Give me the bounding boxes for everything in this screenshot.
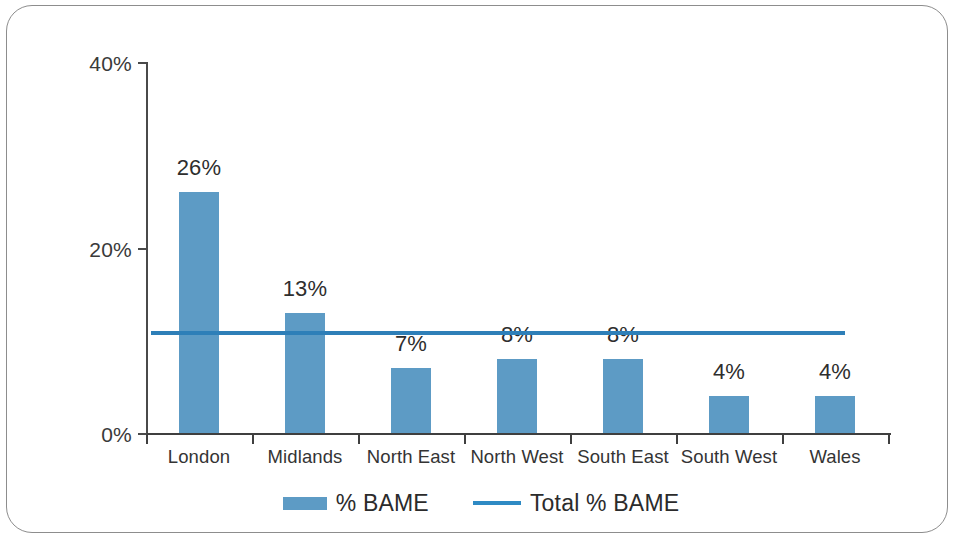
bar-wales[interactable] bbox=[815, 396, 855, 433]
x-axis-category-wales: Wales bbox=[765, 446, 905, 468]
x-axis-tick-6 bbox=[782, 434, 784, 444]
bar-south-east[interactable] bbox=[603, 359, 643, 433]
chart-legend: % BAME Total % BAME bbox=[0, 486, 962, 520]
bar-label-south-west: 4% bbox=[684, 359, 774, 385]
legend-line-swatch-icon bbox=[473, 501, 521, 505]
bar-label-south-east: 8% bbox=[578, 322, 668, 348]
x-axis-tick-1 bbox=[252, 434, 254, 444]
y-axis-label-0: 0% bbox=[52, 423, 132, 447]
y-axis-tick-40 bbox=[138, 62, 147, 64]
legend-label-bame: % BAME bbox=[336, 490, 429, 517]
bar-label-midlands: 13% bbox=[260, 276, 350, 302]
x-axis-line bbox=[146, 433, 891, 435]
bar-label-north-west: 8% bbox=[472, 322, 562, 348]
bar-north-east[interactable] bbox=[391, 368, 431, 433]
x-axis-tick-3 bbox=[464, 434, 466, 444]
legend-label-total-bame: Total % BAME bbox=[530, 490, 679, 517]
y-axis-label-20: 20% bbox=[52, 238, 132, 262]
bar-london[interactable] bbox=[179, 192, 219, 433]
y-axis-tick-20 bbox=[138, 248, 147, 250]
bar-label-wales: 4% bbox=[790, 359, 880, 385]
bar-north-west[interactable] bbox=[497, 359, 537, 433]
bar-label-london: 26% bbox=[154, 155, 244, 181]
bar-south-west[interactable] bbox=[709, 396, 749, 433]
total-bame-reference-line bbox=[151, 331, 845, 335]
x-axis-tick-0 bbox=[146, 434, 148, 444]
x-axis-tick-5 bbox=[676, 434, 678, 444]
x-axis-tick-7 bbox=[888, 434, 890, 444]
y-axis-label-40: 40% bbox=[52, 52, 132, 76]
legend-item-total-bame[interactable]: Total % BAME bbox=[473, 490, 679, 517]
x-axis-tick-2 bbox=[358, 434, 360, 444]
legend-item-bame[interactable]: % BAME bbox=[283, 490, 429, 517]
bame-by-region-bar-chart: 40% 20% 0% 26% 13% 7% 8% 8% 4% 4% London… bbox=[0, 0, 962, 546]
legend-bar-swatch-icon bbox=[283, 497, 327, 510]
x-axis-tick-4 bbox=[570, 434, 572, 444]
